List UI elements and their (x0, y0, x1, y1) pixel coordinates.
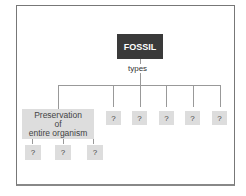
type-node: ? (106, 111, 121, 125)
connector-horizontal (58, 85, 220, 86)
type-node: ? (185, 111, 200, 125)
connector (140, 73, 141, 85)
connector (113, 85, 114, 107)
type-node: ? (212, 111, 227, 125)
relation-label: types (128, 64, 147, 73)
subtype-node: ? (25, 145, 41, 160)
connector (93, 139, 94, 144)
type-node: ? (132, 111, 147, 125)
root-node: FOSSIL (117, 34, 163, 59)
connector (193, 85, 194, 107)
connector (32, 139, 33, 144)
type-node-preservation: Preservation of entire organism (22, 109, 94, 139)
connector (166, 85, 167, 107)
connector (140, 85, 141, 107)
connector (63, 139, 64, 144)
type-node: ? (159, 111, 174, 125)
connector (58, 85, 59, 109)
connector (220, 85, 221, 107)
subtype-node: ? (87, 145, 103, 160)
subtype-node: ? (55, 145, 71, 160)
diagram-frame (16, 5, 235, 186)
